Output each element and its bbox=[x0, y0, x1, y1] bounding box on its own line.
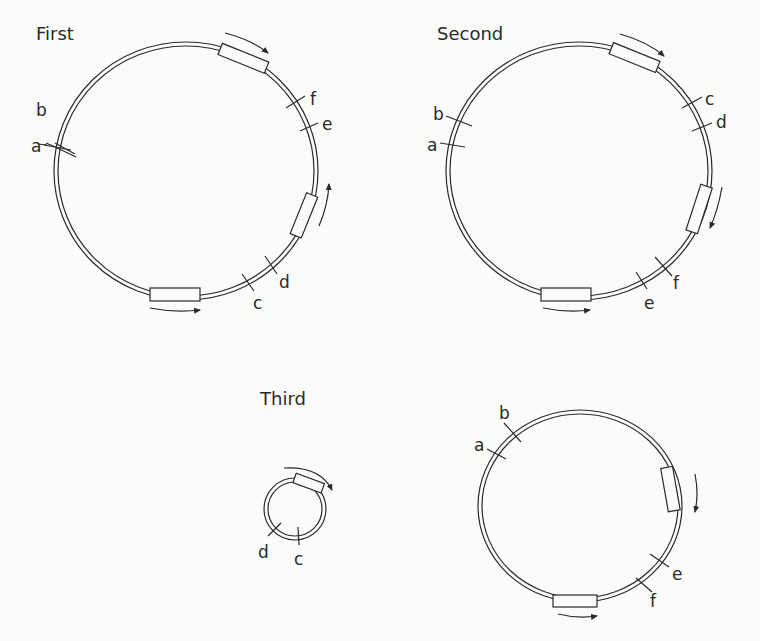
fourth-label-b: b bbox=[499, 403, 510, 423]
first-label-d: d bbox=[279, 272, 290, 292]
third-title: Third bbox=[259, 388, 306, 409]
recombination-diagram: First b a f e d c Second b a c d f e Thi… bbox=[0, 0, 760, 641]
first-label-b: b bbox=[36, 100, 47, 120]
second-label-c: c bbox=[705, 89, 714, 109]
second-title: Second bbox=[437, 23, 503, 44]
first-circle bbox=[38, 33, 329, 311]
fourth-label-f: f bbox=[650, 591, 657, 611]
first-label-f: f bbox=[310, 89, 317, 109]
first-label-c: c bbox=[253, 293, 262, 313]
first-title: First bbox=[36, 23, 74, 44]
second-label-e: e bbox=[644, 293, 654, 313]
second-label-f: f bbox=[673, 273, 680, 293]
third-label-c: c bbox=[294, 549, 303, 569]
second-label-b: b bbox=[433, 104, 444, 124]
second-circle bbox=[440, 34, 722, 311]
first-label-a: a bbox=[31, 136, 41, 156]
first-label-e: e bbox=[322, 114, 332, 134]
third-label-d: d bbox=[258, 542, 269, 562]
fourth-label-a: a bbox=[474, 435, 484, 455]
second-label-d: d bbox=[716, 112, 727, 132]
fourth-label-e: e bbox=[672, 564, 682, 584]
second-label-a: a bbox=[427, 135, 437, 155]
third-circle bbox=[264, 468, 332, 545]
fourth-circle bbox=[478, 410, 697, 617]
